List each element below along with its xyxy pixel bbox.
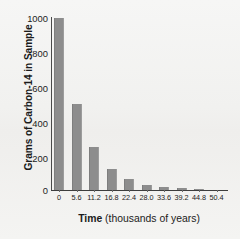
bar [72, 104, 82, 190]
x-tick-mark [59, 190, 60, 192]
bar [107, 169, 117, 191]
bar [124, 179, 134, 190]
x-tick-mark [77, 190, 78, 192]
x-axis-title-rest: (thousands of years) [102, 213, 200, 224]
bar [89, 147, 99, 190]
x-tick-mark [182, 190, 183, 192]
x-tick-mark [112, 190, 113, 192]
y-tick-label: 800 [20, 49, 48, 58]
x-tick-mark [164, 190, 165, 192]
x-tick-mark [129, 190, 130, 192]
x-tick-mark [199, 190, 200, 192]
bar [54, 18, 64, 190]
y-tick-label: 600 [20, 84, 48, 93]
y-tick-label: 200 [20, 154, 48, 163]
x-axis-title-strong: Time [78, 213, 102, 224]
y-tick-label: 400 [20, 119, 48, 128]
x-tick-mark [147, 190, 148, 192]
y-tick-label: 1000 [20, 14, 48, 23]
x-tick-mark [94, 190, 95, 192]
y-axis-tick-labels: 1000 800 600 400 200 0 [16, 0, 48, 239]
carbon-14-decay-chart: Grams of Carbon-14 in Sample 1000 800 60… [0, 0, 240, 239]
plot-area [52, 18, 228, 190]
x-tick-label: 50.4 [202, 193, 232, 202]
x-axis-title: Time (thousands of years) [46, 213, 232, 224]
x-tick-mark [217, 190, 218, 192]
